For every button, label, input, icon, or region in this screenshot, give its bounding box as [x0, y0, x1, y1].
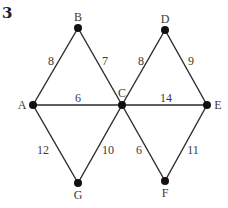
- node-label-b: B: [74, 10, 82, 24]
- edge-weight-c-f: 6: [136, 143, 142, 157]
- edge-weight-a-g: 12: [37, 143, 49, 157]
- edge-weight-a-c: 6: [75, 91, 81, 105]
- weighted-graph: 87689141210611 ABCDEFG: [0, 0, 228, 208]
- node-label-a: A: [18, 98, 27, 112]
- edge-b-c: [78, 28, 122, 105]
- node-f: [161, 177, 169, 185]
- edge-weight-d-e: 9: [188, 54, 194, 68]
- edge-a-b: [33, 28, 78, 105]
- edge-weight-b-c: 7: [102, 54, 108, 68]
- node-label-c: C: [118, 86, 126, 100]
- edge-weight-e-f: 11: [187, 143, 199, 157]
- edge-weight-c-e: 14: [160, 91, 172, 105]
- node-e: [203, 101, 211, 109]
- node-c: [118, 101, 126, 109]
- node-g: [74, 179, 82, 187]
- node-label-g: G: [74, 188, 83, 202]
- node-a: [29, 101, 37, 109]
- edge-weight-c-d: 8: [138, 54, 144, 68]
- edge-e-f: [165, 105, 207, 181]
- node-d: [161, 26, 169, 34]
- edge-weight-a-b: 8: [48, 54, 54, 68]
- node-label-e: E: [214, 98, 221, 112]
- node-label-f: F: [162, 186, 169, 200]
- edge-weight-c-g: 10: [102, 143, 114, 157]
- node-b: [74, 24, 82, 32]
- graph-diagram: 3 87689141210611 ABCDEFG: [0, 0, 228, 208]
- edge-c-f: [122, 105, 165, 181]
- node-label-d: D: [161, 12, 170, 26]
- problem-number: 3: [2, 4, 12, 22]
- edge-c-g: [78, 105, 122, 183]
